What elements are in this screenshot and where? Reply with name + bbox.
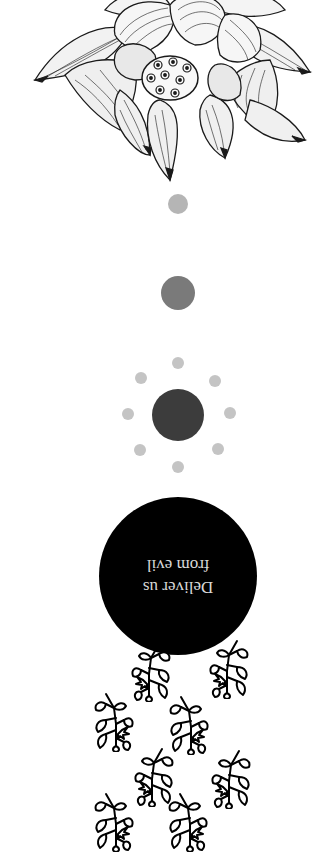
ring-dot-bottom-right	[212, 443, 224, 455]
lotus-flower-illustration	[20, 0, 320, 190]
quote-circle: Deliver us from evil	[99, 497, 257, 655]
small-gray-circle	[168, 194, 188, 214]
leaf-sprig-icon	[90, 690, 136, 752]
ring-dot-top-left	[135, 372, 147, 384]
ring-dot-bottom	[172, 461, 184, 473]
ring-dot-left	[122, 408, 134, 420]
quote-line-2: from evil	[143, 554, 213, 576]
leaf-sprig-icon	[207, 637, 253, 699]
ring-dot-top-right	[209, 375, 221, 387]
ring-dot-right	[224, 407, 236, 419]
large-dark-circle	[152, 389, 204, 441]
ring-dot-bottom-left	[134, 444, 146, 456]
quote-text: Deliver us from evil	[143, 554, 213, 598]
leaf-sprig-icon	[164, 790, 210, 852]
medium-gray-circle	[161, 276, 195, 310]
leaf-sprig-icon	[209, 747, 255, 809]
leaf-sprig-icon	[90, 790, 136, 852]
ring-dot-top	[172, 357, 184, 369]
quote-line-1: Deliver us	[143, 576, 213, 598]
